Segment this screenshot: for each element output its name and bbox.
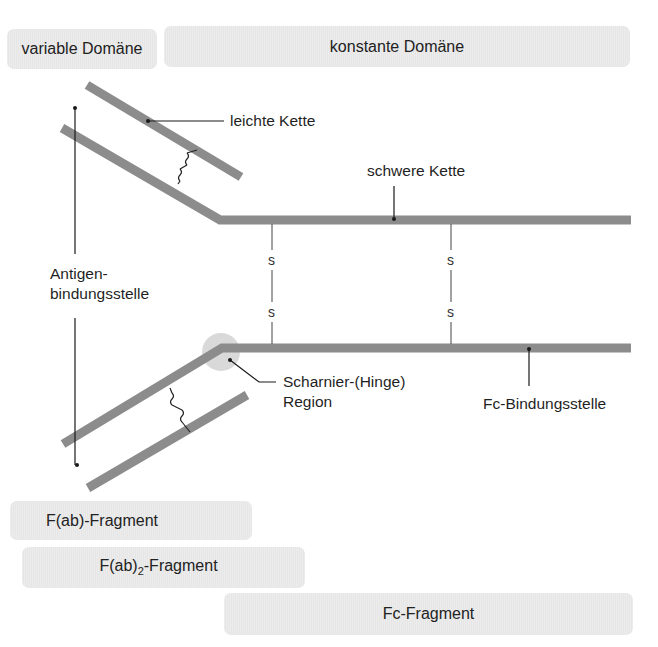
fab2-fragment-box: F(ab)2-Fragment [22,547,305,588]
fc-fragment-label: Fc-Fragment [383,605,475,623]
antigen-binding-site-label: Antigen- bindungsstelle [50,264,149,304]
antigen-binding-line2: bindungsstelle [50,284,149,304]
light-chain-label: leichte Kette [230,111,315,131]
hinge-line1: Scharnier-(Hinge) [283,372,405,392]
fab2-prefix: F(ab) [99,557,137,574]
upper-light-heavy-disulfide [178,150,197,184]
fc-binding-site-label: Fc-Bindungsstelle [483,394,606,414]
heavy-chain-label: schwere Kette [367,161,465,181]
antigen-binding-line1: Antigen- [50,264,149,284]
fab2-fragment-label: F(ab)2-Fragment [99,557,217,577]
lower-light-chain [88,395,247,488]
hinge-line2: Region [283,392,405,412]
upper-light-chain [87,85,241,177]
hinge-leader [230,360,276,382]
fab2-suffix: -Fragment [144,557,218,574]
fc-fragment-box: Fc-Fragment [224,593,633,635]
disulfide-s-right-upper: s [447,252,454,268]
disulfide-s-left-upper: s [268,252,275,268]
hinge-region-label: Scharnier-(Hinge) Region [283,372,405,412]
fab-fragment-label: F(ab)-Fragment [46,512,158,530]
upper-heavy-chain [62,128,631,220]
disulfide-s-right-lower: s [447,304,454,320]
fab-fragment-box: F(ab)-Fragment [10,501,252,540]
disulfide-s-left-lower: s [268,304,275,320]
